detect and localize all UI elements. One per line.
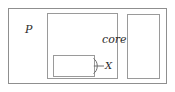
component-label-p: P [25,24,32,35]
component-label-core: core [102,34,127,45]
component-box-mmu[interactable]: mmu [127,14,160,79]
interface-label-x: X [105,61,112,71]
diagram-canvas: P core pc X mmu [0,0,175,92]
required-interface-socket-icon [89,57,105,75]
